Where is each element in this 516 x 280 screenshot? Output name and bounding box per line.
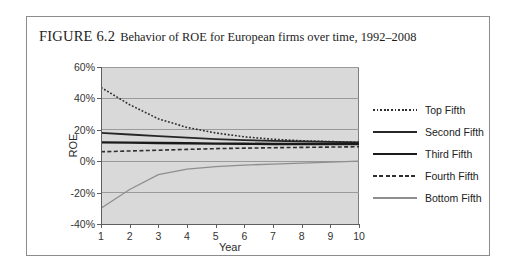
series-line-second-fifth [101,133,359,142]
y-axis-line [101,67,102,224]
x-tick-mark [359,224,360,228]
series-line-top-fifth [101,87,359,142]
y-tick-label: 0% [80,155,95,167]
chart-legend: Top FifthSecond FifthThird FifthFourth F… [373,99,484,209]
legend-item-second-fifth[interactable]: Second Fifth [373,121,484,143]
x-tick-mark [302,224,303,228]
legend-swatch-icon [373,170,417,182]
legend-swatch-icon [373,126,417,138]
y-tick-mark [97,130,101,131]
x-axis-title: Year [101,241,359,253]
figure-frame: FIGURE 6.2Behavior of ROE for European f… [26,16,490,256]
x-tick-mark [216,224,217,228]
x-tick-mark [187,224,188,228]
legend-item-bottom-fifth[interactable]: Bottom Fifth [373,187,484,209]
figure-caption-text: Behavior of ROE for European firms over … [120,30,416,44]
y-axis-title: ROE [67,67,81,224]
chart-lines [101,67,359,224]
x-tick-mark [244,224,245,228]
legend-swatch-icon [373,148,417,160]
x-tick-mark [330,224,331,228]
series-line-fourth-fifth [101,147,359,152]
series-line-bottom-fifth [101,161,359,208]
legend-label: Top Fifth [425,104,465,116]
legend-label: Third Fifth [425,148,472,160]
chart-plot-area: 60%40%20%0%-20%-40% 12345678910 [101,67,359,224]
y-tick-mark [97,67,101,68]
x-tick-mark [101,224,102,228]
legend-label: Fourth Fifth [425,170,479,182]
legend-swatch-icon [373,104,417,116]
legend-item-third-fifth[interactable]: Third Fifth [373,143,484,165]
figure-caption: FIGURE 6.2Behavior of ROE for European f… [39,27,416,45]
figure-label: FIGURE 6.2 [39,28,115,44]
x-tick-mark [158,224,159,228]
legend-label: Second Fifth [425,126,484,138]
x-axis-line [101,224,359,225]
x-tick-mark [130,224,131,228]
y-tick-mark [97,161,101,162]
legend-item-top-fifth[interactable]: Top Fifth [373,99,484,121]
legend-swatch-icon [373,192,417,204]
legend-label: Bottom Fifth [425,192,482,204]
x-tick-mark [273,224,274,228]
legend-item-fourth-fifth[interactable]: Fourth Fifth [373,165,484,187]
y-tick-mark [97,98,101,99]
y-tick-mark [97,193,101,194]
